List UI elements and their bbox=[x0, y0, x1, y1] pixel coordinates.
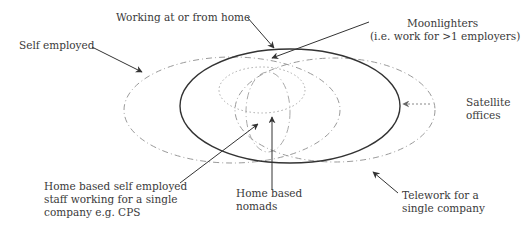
label-satellite-line2: offices bbox=[466, 109, 510, 122]
arrow-moonlighters bbox=[272, 22, 369, 58]
label-working-home: Working at or from home bbox=[116, 11, 250, 24]
arrow-telework bbox=[373, 172, 398, 193]
telework-ellipse bbox=[235, 58, 435, 162]
self-employed-ellipse bbox=[124, 57, 340, 163]
arrow-home-self bbox=[180, 124, 258, 183]
label-nomads-line2: nomads bbox=[236, 200, 302, 213]
label-home-self-line2: staff working for a single bbox=[44, 193, 187, 206]
label-telework-line2: single company bbox=[402, 202, 485, 215]
label-home-self-line3: company e.g. CPS bbox=[44, 206, 187, 219]
label-telework: Telework for a single company bbox=[402, 189, 485, 215]
nomads-ellipse bbox=[246, 72, 290, 152]
label-telework-line1: Telework for a bbox=[402, 189, 485, 202]
label-satellite: Satellite offices bbox=[466, 96, 510, 122]
label-nomads-line1: Home based bbox=[236, 187, 302, 200]
label-moonlighters-line2: (i.e. work for >1 employers) bbox=[370, 30, 520, 43]
label-satellite-line1: Satellite bbox=[466, 96, 510, 109]
label-home-self-line1: Home based self employed bbox=[44, 180, 187, 193]
label-self-employed: Self employed bbox=[19, 39, 94, 52]
label-home-self-employed: Home based self employed staff working f… bbox=[44, 180, 187, 219]
label-moonlighters-line1: Moonlighters bbox=[370, 17, 520, 30]
arrow-working-home bbox=[247, 17, 274, 48]
arrow-self-employed bbox=[92, 47, 142, 72]
label-nomads: Home based nomads bbox=[236, 187, 302, 213]
label-moonlighters: Moonlighters (i.e. work for >1 employers… bbox=[370, 17, 520, 43]
